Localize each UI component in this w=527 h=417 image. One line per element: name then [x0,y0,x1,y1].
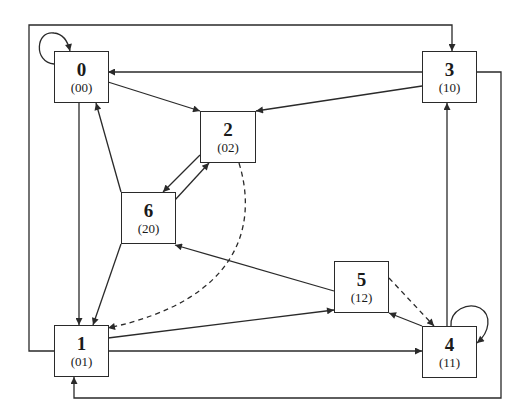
state-node-4: 4 (11) [422,326,477,378]
state-diagram: 0 (00) 1 (01) 2 (02) 3 (10) 4 (11) 5 (12… [0,0,527,417]
edge-6-to-1 [93,244,121,325]
node-code: (20) [138,221,160,236]
state-node-2: 2 (02) [200,111,256,163]
node-code: (12) [351,290,373,305]
edge-1-to-5 [108,310,334,338]
node-label: 2 [223,120,233,139]
edge-5-to-6 [175,245,334,291]
node-code: (01) [71,354,93,369]
state-node-5: 5 (12) [334,261,389,313]
node-code: (10) [439,80,461,95]
node-code: (11) [439,355,460,370]
node-label: 6 [144,201,154,220]
edge-6-to-0 [96,103,121,192]
state-node-6: 6 (20) [121,192,176,244]
state-node-1: 1 (01) [54,325,109,377]
node-label: 4 [445,335,455,354]
edge-0-to-2 [108,82,200,111]
state-node-3: 3 (10) [422,51,477,103]
state-node-0: 0 (00) [54,51,109,103]
edge-2-to-6 [163,155,200,192]
edge-6-to-2 [175,163,209,200]
node-label: 0 [77,60,87,79]
node-code: (02) [217,140,239,155]
node-label: 1 [77,334,87,353]
node-label: 5 [357,270,367,289]
edge-3-to-2 [256,86,422,111]
edge-5-to-4-dashed [389,278,434,326]
edge-4-to-5 [389,313,422,326]
node-label: 3 [445,60,455,79]
node-code: (00) [71,80,93,95]
